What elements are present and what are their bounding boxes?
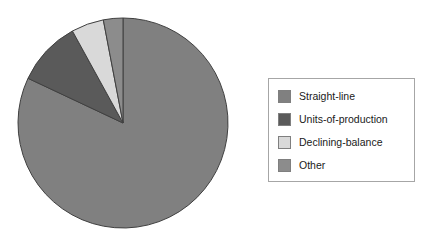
legend-item-other[interactable]: Other: [278, 154, 414, 177]
legend-swatch-declining-balance: [278, 136, 291, 149]
pie-slices-group: [18, 18, 228, 228]
legend-swatch-straight-line: [278, 90, 291, 103]
legend-label-other: Other: [299, 160, 325, 171]
legend-label-straight-line: Straight-line: [299, 91, 355, 102]
chart-legend: Straight-line Units-of-production Declin…: [268, 78, 415, 182]
legend-item-declining-balance[interactable]: Declining-balance: [278, 131, 414, 154]
legend-item-straight-line[interactable]: Straight-line: [278, 85, 414, 108]
legend-label-declining-balance: Declining-balance: [299, 137, 382, 148]
legend-swatch-other: [278, 159, 291, 172]
legend-item-units-of-production[interactable]: Units-of-production: [278, 108, 414, 131]
legend-label-units-of-production: Units-of-production: [299, 114, 388, 125]
legend-swatch-units-of-production: [278, 113, 291, 126]
pie-chart-figure: Straight-line Units-of-production Declin…: [0, 0, 430, 250]
